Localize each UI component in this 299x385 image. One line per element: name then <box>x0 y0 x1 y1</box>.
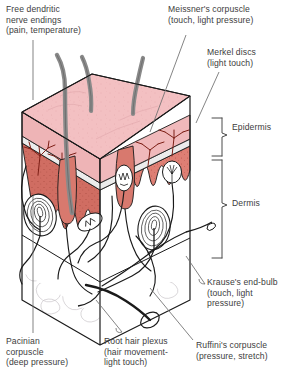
label-ruffini-corpuscle: Ruffini's corpuscle (pressure, stretch) <box>196 340 268 361</box>
label-merkel-discs: Merkel discs (light touch) <box>207 47 256 68</box>
label-meissner-corpuscle: Meissner's corpuscle (touch, light press… <box>168 4 253 25</box>
label-root-hair-plexus: Root hair plexus (hair movement- light t… <box>104 336 168 368</box>
label-dermis: Dermis <box>232 198 260 209</box>
skin-receptor-diagram: Free dendritic nerve endings (pain, temp… <box>0 0 299 385</box>
epidermis-bracket <box>212 118 227 156</box>
krause-end-bulb <box>163 161 182 183</box>
label-pacinian-corpuscle: Pacinian corpuscle (deep pressure) <box>6 336 68 368</box>
label-free-nerve-endings: Free dendritic nerve endings (pain, temp… <box>6 4 81 36</box>
label-krause-end-bulb: Krause's end-bulb (touch, light pressure… <box>207 277 278 309</box>
label-epidermis: Epidermis <box>232 122 271 133</box>
layer-brackets <box>212 118 227 258</box>
dermis-bracket <box>212 160 227 258</box>
meissner-corpuscle <box>116 165 133 191</box>
